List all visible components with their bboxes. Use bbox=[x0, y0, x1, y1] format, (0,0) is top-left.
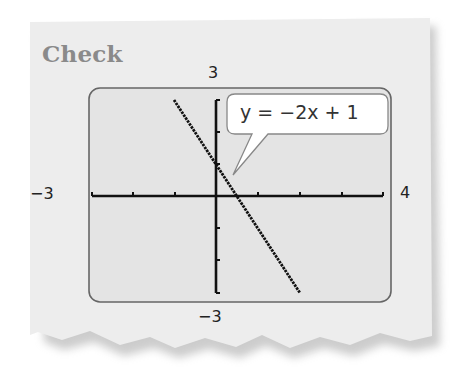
calculator-graph bbox=[0, 0, 459, 372]
y-min-label: −3 bbox=[198, 307, 222, 326]
equation-label: y = −2x + 1 bbox=[240, 101, 359, 123]
x-min-label: −3 bbox=[30, 184, 54, 203]
x-max-label: 4 bbox=[400, 183, 410, 202]
y-max-label: 3 bbox=[208, 63, 218, 82]
